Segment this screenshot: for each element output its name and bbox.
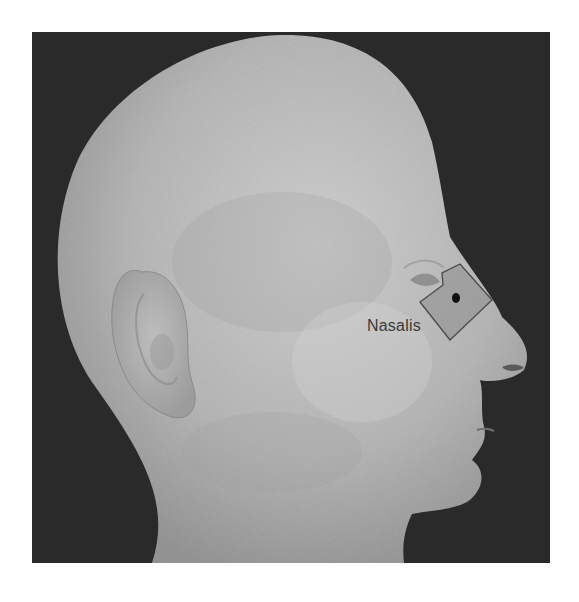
nasalis-label: Nasalis xyxy=(367,317,421,335)
nasalis-marker-dot xyxy=(452,293,460,303)
anatomy-figure xyxy=(32,32,550,563)
head-profile-illustration xyxy=(32,32,550,563)
